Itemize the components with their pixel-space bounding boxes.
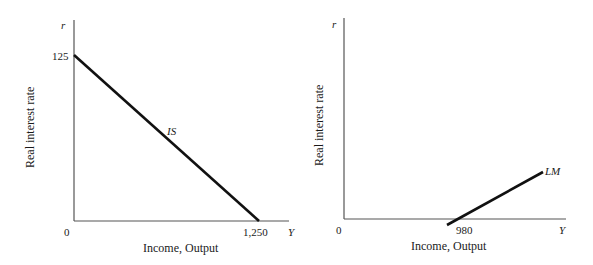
lm-y-axis-label: Real interest rate [312, 85, 326, 166]
is-y-symbol: r [61, 19, 66, 31]
is-y-axis-label: Real interest rate [23, 87, 37, 168]
is-x-tick-1250: 1,250 [243, 226, 268, 238]
lm-chart: r 0 980 Y LM Income, Output Real interes… [312, 18, 567, 253]
is-curve [74, 55, 259, 221]
is-chart: r 125 0 1,250 Y IS Income, Output Real i… [23, 19, 296, 255]
is-x-axis-label: Income, Output [143, 241, 219, 255]
is-origin-label: 0 [64, 226, 70, 238]
lm-origin-label: 0 [336, 224, 342, 236]
lm-x-axis-label: Income, Output [411, 239, 487, 253]
is-curve-label: IS [166, 125, 177, 137]
lm-y-symbol: r [332, 18, 337, 30]
lm-x-symbol: Y [559, 224, 567, 236]
lm-x-tick-980: 980 [456, 224, 473, 236]
is-y-tick-125: 125 [52, 50, 69, 62]
is-x-symbol: Y [288, 226, 296, 238]
lm-curve [447, 172, 543, 225]
chart-canvas: r 125 0 1,250 Y IS Income, Output Real i… [0, 0, 593, 265]
lm-curve-label: LM [544, 165, 561, 177]
